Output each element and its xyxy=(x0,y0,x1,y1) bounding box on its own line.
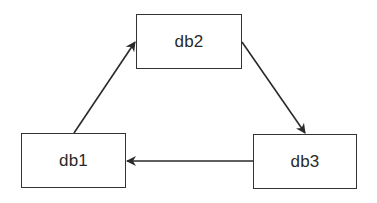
edge-db1-to-db2 xyxy=(74,42,135,133)
node-label: db1 xyxy=(59,151,88,171)
node-label: db3 xyxy=(291,152,320,172)
node-db1: db1 xyxy=(21,133,126,188)
node-db3: db3 xyxy=(253,134,357,189)
replication-diagram: db2 db1 db3 xyxy=(0,0,377,203)
node-db2: db2 xyxy=(136,14,242,69)
edge-db2-to-db3 xyxy=(242,42,305,133)
node-label: db2 xyxy=(175,32,204,52)
